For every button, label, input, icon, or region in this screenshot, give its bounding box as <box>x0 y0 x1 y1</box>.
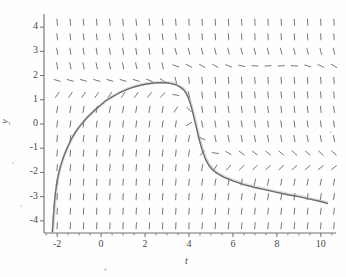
x-tick-label: 6 <box>219 238 247 249</box>
figure-slope-field: 43210-1-2-3-4-20246810ty <box>0 0 346 277</box>
x-tick-label: -2 <box>43 238 71 249</box>
y-axis-label: y <box>0 119 10 123</box>
x-tick-label: 8 <box>263 238 291 249</box>
scan-speck <box>330 131 332 133</box>
y-tick-label: -3 <box>0 190 38 201</box>
x-axis-label: t <box>185 255 188 266</box>
x-tick-label: 4 <box>175 238 203 249</box>
x-tick-label: 10 <box>307 238 335 249</box>
y-tick-label: -4 <box>0 214 38 225</box>
y-tick-label: -1 <box>0 141 38 152</box>
axis-layer <box>40 14 336 237</box>
y-tick-label: -2 <box>0 165 38 176</box>
scan-speck <box>104 268 107 271</box>
solution-curve-layer <box>52 82 328 232</box>
y-tick-label: 4 <box>0 20 38 31</box>
scan-speck <box>12 162 14 164</box>
x-tick-label: 2 <box>131 238 159 249</box>
scan-speck <box>20 205 22 207</box>
plot-canvas <box>0 0 346 277</box>
x-tick-label: 0 <box>87 238 115 249</box>
y-tick-label: 1 <box>0 93 38 104</box>
y-tick-label: 3 <box>0 44 38 55</box>
y-tick-label: 2 <box>0 69 38 80</box>
